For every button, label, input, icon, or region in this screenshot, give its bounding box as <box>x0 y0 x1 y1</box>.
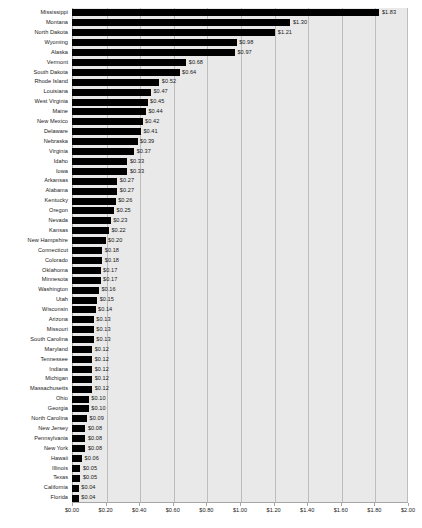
bar <box>72 346 92 353</box>
category-label: New Hampshire <box>0 238 68 244</box>
category-label: Wisconsin <box>0 307 68 313</box>
bar <box>72 19 290 26</box>
bar <box>72 247 102 254</box>
category-label: Ohio <box>0 396 68 402</box>
category-label: Minnesota <box>0 277 68 283</box>
x-tick-label: $1.40 <box>300 508 314 514</box>
x-tick-mark <box>274 503 275 506</box>
bar-value-label: $0.17 <box>103 277 117 283</box>
bar-row: Pennsylvania$0.08 <box>0 434 422 444</box>
category-label: Mississippi <box>0 10 68 16</box>
x-tick-mark <box>240 503 241 506</box>
bar-container: $0.37 <box>72 148 151 155</box>
bar-value-label: $0.05 <box>83 466 97 472</box>
bar <box>72 89 151 96</box>
bar-container: $0.04 <box>72 495 95 502</box>
category-label: Massachusetts <box>0 386 68 392</box>
bar-container: $0.22 <box>72 227 126 234</box>
bar-row: Tennessee$0.12 <box>0 355 422 365</box>
bar <box>72 465 80 472</box>
bar-row: Louisiana$0.47 <box>0 87 422 97</box>
x-tick-label: $1.00 <box>233 508 247 514</box>
bar-row: Virginia$0.37 <box>0 147 422 157</box>
bar-container: $0.41 <box>72 128 158 135</box>
bar-row: West Virginia$0.45 <box>0 97 422 107</box>
bar-value-label: $0.33 <box>130 169 144 175</box>
x-tick-label: $1.80 <box>367 508 381 514</box>
category-label: Oregon <box>0 208 68 214</box>
bar-value-label: $0.97 <box>237 50 251 56</box>
bar-container: $0.17 <box>72 267 117 274</box>
bar-value-label: $0.22 <box>111 228 125 234</box>
bar-container: $0.12 <box>72 346 109 353</box>
category-label: Nevada <box>0 218 68 224</box>
bar <box>72 237 106 244</box>
bar-row: Mississippi$1.83 <box>0 8 422 18</box>
bar-value-label: $0.04 <box>81 485 95 491</box>
bar-container: $0.44 <box>72 108 163 115</box>
bar-value-label: $0.25 <box>117 208 131 214</box>
category-label: Washington <box>0 287 68 293</box>
x-tick-mark <box>72 503 73 506</box>
bar-value-label: $0.27 <box>120 178 134 184</box>
category-label: Tennessee <box>0 357 68 363</box>
bar-value-label: $0.04 <box>81 495 95 501</box>
bar-container: $0.15 <box>72 297 114 304</box>
bar-row: California$0.04 <box>0 483 422 493</box>
category-label: Kansas <box>0 228 68 234</box>
bar <box>72 118 143 125</box>
x-tick-mark <box>139 503 140 506</box>
bar-row: New Hampshire$0.20 <box>0 236 422 246</box>
bar-container: $0.39 <box>72 138 154 145</box>
category-label: Nebraska <box>0 139 68 145</box>
bar-row: South Carolina$0.13 <box>0 335 422 345</box>
x-tick-label: $2.00 <box>401 508 415 514</box>
bar-value-label: $0.23 <box>113 218 127 224</box>
bar-value-label: $0.10 <box>91 396 105 402</box>
bar <box>72 306 96 313</box>
bar <box>72 445 85 452</box>
bar-row: New York$0.08 <box>0 444 422 454</box>
bar-value-label: $0.13 <box>96 337 110 343</box>
bar-value-label: $0.08 <box>88 436 102 442</box>
bar-container: $0.33 <box>72 158 144 165</box>
bar <box>72 148 134 155</box>
bar-container: $0.12 <box>72 366 109 373</box>
bar-value-label: $1.83 <box>382 10 396 16</box>
x-tick-mark <box>173 503 174 506</box>
bar <box>72 79 159 86</box>
category-label: Virginia <box>0 149 68 155</box>
bar-row: Nebraska$0.39 <box>0 137 422 147</box>
bar-value-label: $0.39 <box>140 139 154 145</box>
bar-container: $0.10 <box>72 405 106 412</box>
category-label: South Dakota <box>0 70 68 76</box>
bar-value-label: $0.64 <box>182 70 196 76</box>
category-label: Vermont <box>0 60 68 66</box>
bar-value-label: $0.06 <box>85 456 99 462</box>
category-label: California <box>0 485 68 491</box>
bar <box>72 405 89 412</box>
category-label: Georgia <box>0 406 68 412</box>
bar <box>72 366 92 373</box>
category-label: Idaho <box>0 159 68 165</box>
bar <box>72 59 186 66</box>
bar-container: $0.12 <box>72 356 109 363</box>
bar-row: Oregon$0.25 <box>0 206 422 216</box>
bar-row: Missouri$0.13 <box>0 325 422 335</box>
bar <box>72 39 237 46</box>
bar-row: Maine$0.44 <box>0 107 422 117</box>
category-label: Indiana <box>0 367 68 373</box>
x-tick-label: $1.60 <box>334 508 348 514</box>
bar-value-label: $0.52 <box>162 79 176 85</box>
bar <box>72 297 97 304</box>
bar <box>72 99 148 106</box>
bar <box>72 425 85 432</box>
bar-value-label: $0.44 <box>148 109 162 115</box>
category-label: Pennsylvania <box>0 436 68 442</box>
category-label: Wyoming <box>0 40 68 46</box>
bar-container: $0.25 <box>72 207 131 214</box>
category-label: New York <box>0 446 68 452</box>
bar-row: Idaho$0.33 <box>0 157 422 167</box>
bar <box>72 495 79 502</box>
bar <box>72 138 138 145</box>
